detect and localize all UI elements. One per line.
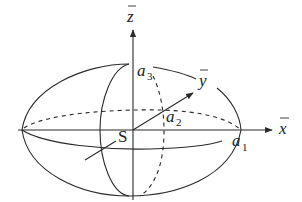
a1-label: a 1 bbox=[232, 131, 248, 153]
x-axis-label: x bbox=[278, 118, 289, 138]
svg-text:x: x bbox=[278, 119, 287, 138]
svg-text:a: a bbox=[137, 61, 146, 80]
a2-label: a 2 bbox=[166, 107, 182, 128]
svg-text:a: a bbox=[166, 107, 175, 126]
ellipsoid-diagram: z y x S a 3 a 2 a 1 bbox=[0, 0, 302, 202]
svg-text:1: 1 bbox=[242, 141, 248, 153]
y-axis-label: y bbox=[197, 70, 208, 90]
svg-text:z: z bbox=[126, 7, 134, 26]
center-label-s: S bbox=[118, 127, 127, 146]
svg-text:2: 2 bbox=[176, 116, 182, 128]
a3-label: a 3 bbox=[137, 61, 153, 82]
z-axis-label: z bbox=[126, 6, 136, 26]
svg-text:a: a bbox=[232, 131, 241, 150]
svg-text:y: y bbox=[197, 71, 207, 90]
svg-text:3: 3 bbox=[147, 70, 153, 82]
axes bbox=[18, 30, 272, 200]
